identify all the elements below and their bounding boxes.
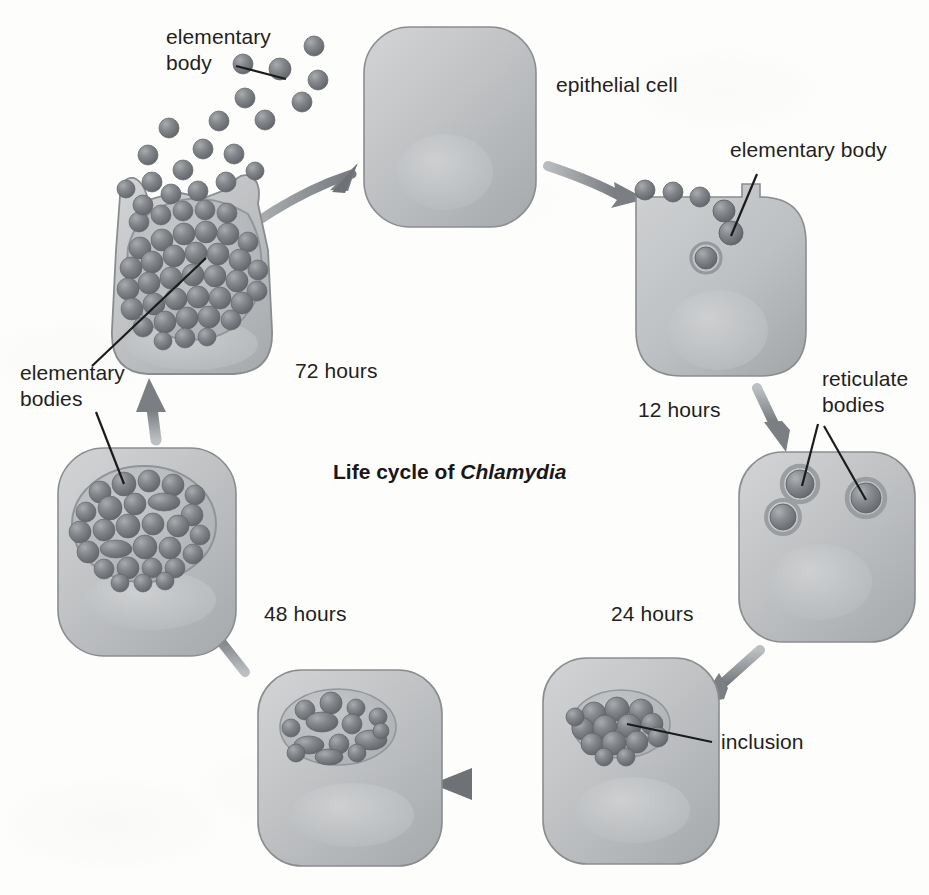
cell-48h [58, 448, 236, 656]
figure-title-prefix: Life cycle of [333, 460, 460, 483]
label-reticulate-bodies: reticulate bodies [822, 366, 908, 418]
label-inclusion: inclusion [721, 729, 804, 755]
arrow-cell-to-attachment [548, 166, 646, 208]
arrow-12h-to-reticulate [757, 388, 790, 452]
cell-reticulate-bodies [739, 452, 915, 642]
arrow-48h-to-72h [136, 378, 166, 440]
figure-title: Life cycle of Chlamydia [333, 460, 566, 484]
figure-canvas: elementary body epithelial cell elementa… [0, 0, 929, 895]
nucleus [768, 544, 872, 620]
nucleus [397, 134, 493, 210]
cell-12h-attachment [635, 180, 806, 376]
cell-24h-inclusion [543, 658, 719, 864]
timepoint-12-hours: 12 hours [638, 397, 721, 423]
cell-enlarging-inclusion [258, 670, 442, 866]
label-elementary-bodies-released: elementary bodies [20, 360, 125, 412]
cell-uninfected-epithelial [364, 27, 536, 227]
timepoint-48-hours: 48 hours [264, 601, 347, 627]
timepoint-72-hours: 72 hours [295, 358, 378, 384]
nucleus [576, 777, 690, 843]
diagram-illustration [0, 0, 929, 895]
label-elementary-body-entering: elementary body [730, 137, 887, 163]
nucleus [290, 783, 414, 847]
figure-title-species: Chlamydia [460, 460, 566, 483]
arrow-24h-to-next [432, 768, 520, 800]
label-epithelial-cell: epithelial cell [556, 72, 678, 98]
nucleus [668, 290, 768, 370]
label-elementary-body-free: elementary body [166, 24, 271, 76]
timepoint-24-hours: 24 hours [611, 601, 694, 627]
